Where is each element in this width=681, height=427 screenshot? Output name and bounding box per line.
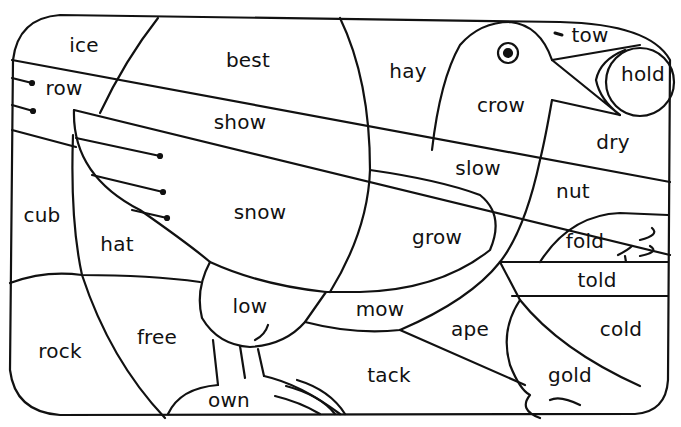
region-told[interactable]: told — [577, 270, 616, 290]
region-show[interactable]: show — [214, 112, 267, 132]
region-dry[interactable]: dry — [596, 132, 629, 152]
region-cold[interactable]: cold — [600, 319, 642, 339]
region-own[interactable]: own — [208, 390, 250, 410]
region-grow[interactable]: grow — [412, 227, 462, 247]
region-row[interactable]: row — [46, 78, 83, 98]
region-fold[interactable]: fold — [566, 231, 604, 251]
region-crow[interactable]: crow — [477, 95, 525, 115]
region-free[interactable]: free — [137, 327, 177, 347]
region-low[interactable]: low — [233, 296, 268, 316]
region-ice[interactable]: ice — [69, 35, 98, 55]
region-snow[interactable]: snow — [234, 202, 287, 222]
region-hat[interactable]: hat — [100, 234, 133, 254]
region-slow[interactable]: slow — [455, 158, 500, 178]
region-tow[interactable]: tow — [571, 25, 608, 45]
region-rock[interactable]: rock — [38, 341, 81, 361]
region-ape[interactable]: ape — [451, 319, 489, 339]
region-mow[interactable]: mow — [356, 299, 405, 319]
region-nut[interactable]: nut — [556, 181, 590, 201]
region-best[interactable]: best — [226, 50, 270, 70]
region-tack[interactable]: tack — [367, 365, 410, 385]
region-hold[interactable]: hold — [621, 64, 665, 84]
region-gold[interactable]: gold — [548, 365, 592, 385]
coloring-page: ice best hay tow hold row crow show dry … — [0, 0, 681, 427]
region-cub[interactable]: cub — [24, 205, 61, 225]
region-hay[interactable]: hay — [389, 61, 426, 81]
